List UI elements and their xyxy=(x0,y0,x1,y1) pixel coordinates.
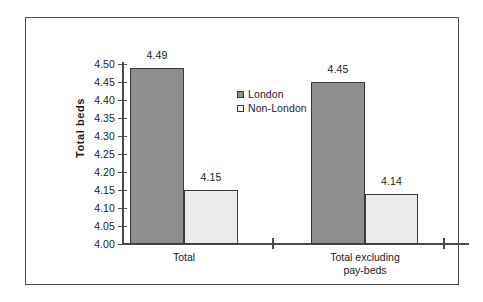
legend-swatch-icon xyxy=(237,91,244,98)
y-axis-tick-label: 4.00 xyxy=(83,238,115,250)
bar-non-london-total[interactable] xyxy=(184,190,238,244)
x-axis-category-label-total: Total xyxy=(139,251,229,264)
legend-item-non-london[interactable]: Non-London xyxy=(237,101,307,115)
y-axis-tick xyxy=(118,172,127,173)
y-axis-tick-label: 4.05 xyxy=(83,220,115,232)
bar-value-label: 4.45 xyxy=(311,63,365,75)
legend: London Non-London xyxy=(235,86,309,116)
legend-swatch-icon xyxy=(237,105,244,112)
y-axis-tick xyxy=(118,64,127,65)
x-axis-tick xyxy=(443,238,445,249)
legend-item-label: Non-London xyxy=(248,102,307,114)
y-axis-tick-label: 4.30 xyxy=(83,130,115,142)
y-axis-title: Total beds xyxy=(74,73,86,183)
y-axis-tick-label: 4.35 xyxy=(83,112,115,124)
y-axis-tick xyxy=(118,118,127,119)
y-axis-tick xyxy=(118,154,127,155)
x-axis-tick xyxy=(272,238,274,249)
y-axis-tick xyxy=(118,208,127,209)
chart-frame: 4.50 4.45 4.40 4.35 4.30 4.25 4.20 4.15 … xyxy=(25,17,459,285)
y-axis-tick xyxy=(118,100,127,101)
legend-item-london[interactable]: London xyxy=(237,87,307,101)
bar-london-total[interactable] xyxy=(130,68,184,244)
bar-value-label: 4.49 xyxy=(130,49,184,61)
y-axis-tick-label: 4.25 xyxy=(83,148,115,160)
y-axis-tick xyxy=(118,190,127,191)
bar-chart-figure: 4.50 4.45 4.40 4.35 4.30 4.25 4.20 4.15 … xyxy=(0,0,483,302)
y-axis-tick xyxy=(118,226,127,227)
bar-non-london-total-excluding-pay-beds[interactable] xyxy=(365,194,418,244)
y-axis-tick-label: 4.40 xyxy=(83,94,115,106)
x-axis-category-label-total-excluding-pay-beds: Total excluding pay-beds xyxy=(304,251,426,277)
bar-value-label: 4.15 xyxy=(184,171,238,183)
bar-value-label: 4.14 xyxy=(365,175,418,187)
bar-london-total-excluding-pay-beds[interactable] xyxy=(311,82,365,244)
y-axis-tick-label: 4.20 xyxy=(83,166,115,178)
y-axis-tick-label: 4.15 xyxy=(83,184,115,196)
y-axis-tick xyxy=(118,244,127,245)
y-axis-tick-label: 4.45 xyxy=(83,76,115,88)
y-axis-tick xyxy=(118,82,127,83)
y-axis-tick-label: 4.50 xyxy=(83,58,115,70)
legend-item-label: London xyxy=(248,88,284,100)
y-axis-tick xyxy=(118,136,127,137)
y-axis-tick-label: 4.10 xyxy=(83,202,115,214)
